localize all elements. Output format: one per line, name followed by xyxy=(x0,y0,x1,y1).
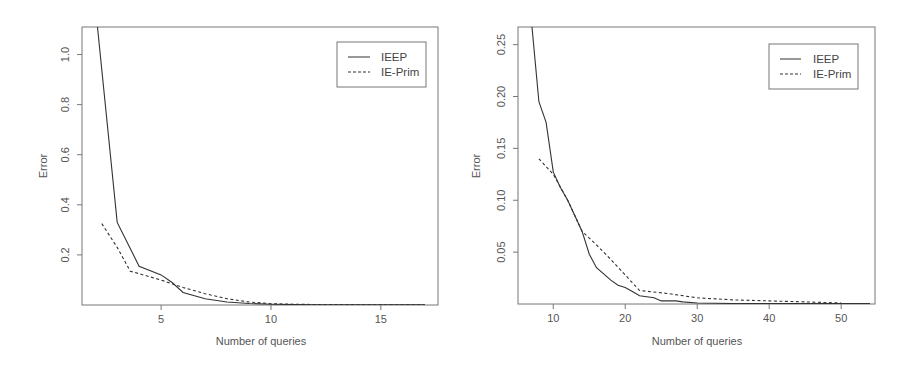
legend: IEEP IE-Prim xyxy=(337,42,426,87)
x-tick-label: 50 xyxy=(835,312,847,324)
y-tick-label: 0.4 xyxy=(59,197,71,212)
chart-left: 510150.20.40.60.81.0 Error Number of que… xyxy=(37,5,438,348)
x-tick-label: 20 xyxy=(619,312,631,324)
y-tick-label: 0.6 xyxy=(59,147,71,162)
series-ie-prim xyxy=(539,159,841,303)
series-ie-prim xyxy=(102,224,425,305)
y-axis-title: Error xyxy=(470,153,482,178)
figure-canvas: 510150.20.40.60.81.0 Error Number of que… xyxy=(0,0,911,368)
x-axis-title: Number of queries xyxy=(216,335,307,347)
legend-box xyxy=(769,44,858,89)
x-axis-title: Number of queries xyxy=(652,335,743,347)
y-tick-label: 0.25 xyxy=(495,34,507,55)
chart-right: 10203040500.050.100.150.200.25 Error Num… xyxy=(470,24,875,347)
legend: IEEP IE-Prim xyxy=(769,44,858,89)
x-tick-label: 10 xyxy=(265,313,277,325)
x-tick-label: 10 xyxy=(547,312,559,324)
legend-label-ieep: IEEP xyxy=(381,51,408,63)
x-tick-label: 30 xyxy=(691,312,703,324)
x-tick-label: 5 xyxy=(158,313,164,325)
y-tick-label: 0.8 xyxy=(59,97,71,112)
y-tick-label: 0.20 xyxy=(495,86,507,107)
x-tick-label: 40 xyxy=(763,312,775,324)
y-tick-label: 0.10 xyxy=(495,190,507,211)
x-tick-label: 15 xyxy=(375,313,387,325)
legend-box xyxy=(337,42,426,87)
legend-label-ie-prim: IE-Prim xyxy=(813,68,851,80)
y-tick-label: 0.05 xyxy=(495,241,507,262)
y-tick-label: 0.2 xyxy=(59,247,71,262)
legend-label-ie-prim: IE-Prim xyxy=(381,66,419,78)
y-tick-label: 0.15 xyxy=(495,138,507,159)
y-axis-title: Error xyxy=(37,153,49,178)
legend-label-ieep: IEEP xyxy=(813,53,840,65)
axis-ticks: 510150.20.40.60.81.0 xyxy=(59,47,387,325)
y-tick-label: 1.0 xyxy=(59,47,71,62)
